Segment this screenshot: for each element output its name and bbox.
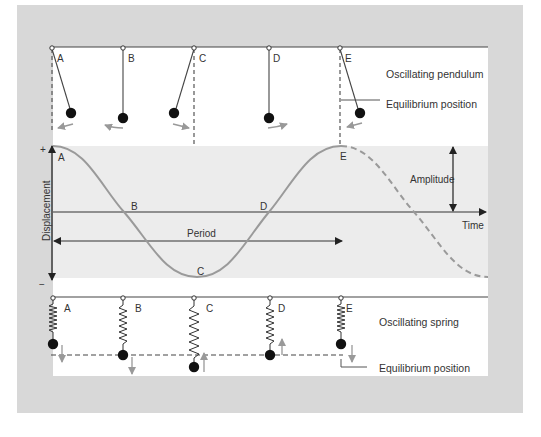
pendulum-label-c: C — [199, 53, 206, 64]
pivot-icon — [268, 296, 272, 300]
spring-mass-icon — [118, 350, 128, 360]
spring-label-e: E — [346, 303, 353, 314]
spring-label-a: A — [64, 303, 71, 314]
pivot-icon — [338, 46, 342, 50]
pivot-icon — [267, 46, 271, 50]
spring-mass-icon — [48, 339, 58, 349]
graph-point-d: D — [260, 201, 267, 212]
pivot-icon — [51, 296, 55, 300]
pendulum-label-a: A — [57, 53, 64, 64]
pendulum-bob-icon — [264, 113, 274, 123]
time-axis-label: Time — [462, 220, 484, 231]
simple-harmonic-motion-diagram: A B C D — [0, 0, 541, 437]
pendulum-bob-icon — [118, 113, 128, 123]
pendulum-label-d: D — [273, 53, 280, 64]
pivot-icon — [121, 46, 125, 50]
spring-mass-icon — [265, 350, 275, 360]
pendulum-bob-icon — [355, 108, 365, 118]
pivot-icon — [192, 296, 196, 300]
period-label: Period — [187, 228, 216, 239]
amplitude-label: Amplitude — [410, 174, 455, 185]
spring-label-d: D — [278, 303, 285, 314]
spring-caption: Oscillating spring — [379, 316, 459, 328]
y-plus-label: + — [40, 144, 46, 155]
y-minus-label: − — [39, 279, 45, 290]
y-axis-label: Displacement — [41, 180, 52, 241]
spring-label-c: C — [206, 303, 213, 314]
displacement-time-graph: + − Displacement Time Period Amplitude A… — [17, 132, 488, 292]
pivot-icon — [121, 296, 125, 300]
graph-point-e: E — [340, 151, 347, 162]
pendulum-bob-icon — [66, 108, 76, 118]
pendulum-label-e: E — [345, 53, 352, 64]
pendulum-bob-icon — [169, 108, 179, 118]
pivot-icon — [50, 46, 54, 50]
pendulum-caption: Oscillating pendulum — [386, 68, 484, 80]
spring-mass-icon — [336, 339, 346, 349]
spring-equilibrium-label: Equilibrium position — [379, 362, 470, 374]
graph-point-a: A — [58, 152, 65, 163]
pendulum-equilibrium-label: Equilibrium position — [386, 98, 477, 110]
graph-point-b: B — [131, 201, 138, 212]
pendulum-label-b: B — [128, 53, 135, 64]
pivot-icon — [192, 46, 196, 50]
spring-label-b: B — [135, 303, 142, 314]
spring-mass-icon — [189, 362, 199, 372]
graph-point-c: C — [197, 266, 204, 277]
pivot-icon — [339, 296, 343, 300]
